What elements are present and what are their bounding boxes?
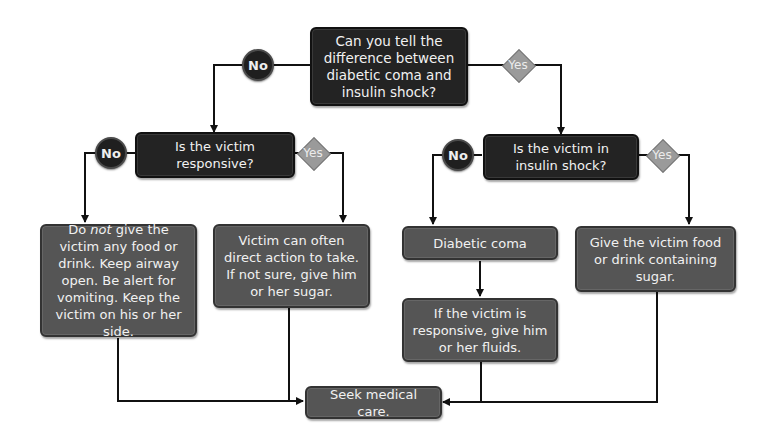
- question-victim-responsive: Is the victim responsive?: [135, 132, 295, 178]
- action-give-sugar: Give the victim food or drink containing…: [575, 226, 736, 292]
- action-unresponsive-care: Do not give the victim any food or drink…: [40, 224, 197, 337]
- text-emphasis: not: [90, 222, 111, 237]
- yes-label: Yes: [646, 139, 678, 171]
- action-give-fluids: If the victim is responsive, give him or…: [402, 298, 558, 362]
- no-badge-q1: No: [242, 49, 274, 81]
- end-seek-medical-care: Seek medical care.: [305, 386, 442, 419]
- question-distinguish-coma-shock: Can you tell the difference between diab…: [310, 27, 468, 106]
- no-label: No: [101, 146, 121, 161]
- text-prefix: Do: [68, 222, 90, 237]
- yes-badge-q3: Yes: [646, 139, 678, 171]
- question-insulin-shock: Is the victim in insulin shock?: [483, 134, 639, 180]
- no-badge-q3: No: [442, 139, 474, 171]
- connector-a5-end: [443, 362, 481, 402]
- connector-a1-end: [118, 338, 303, 401]
- no-label: No: [248, 58, 268, 73]
- yes-badge-q1: Yes: [502, 49, 534, 81]
- yes-badge-q2: Yes: [297, 137, 329, 169]
- action-unresponsive-text: Do not give the victim any food or drink…: [48, 221, 189, 340]
- outcome-diabetic-coma: Diabetic coma: [402, 226, 558, 260]
- text-rest: give the victim any food or drink. Keep …: [55, 222, 181, 339]
- no-label: No: [448, 148, 468, 163]
- action-responsive-sugar: Victim can often direct action to take. …: [213, 224, 370, 308]
- yes-label: Yes: [297, 137, 329, 169]
- yes-label: Yes: [502, 49, 534, 81]
- no-badge-q2: No: [95, 137, 127, 169]
